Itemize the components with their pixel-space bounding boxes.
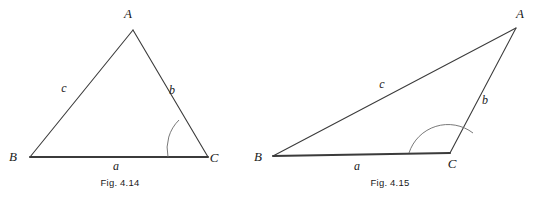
triangle-side-a [273,153,450,156]
figure-board: A B C a b c Fig. 4.14 A B C a b c Fig. 4… [0,0,540,199]
side-label-b: b [169,83,175,97]
triangle-side-b [450,28,516,153]
side-label-b: b [482,93,488,107]
vertex-label-c: C [448,156,457,171]
vertex-label-b: B [9,149,17,164]
vertex-label-a: A [123,6,132,21]
figures-canvas: A B C a b c Fig. 4.14 A B C a b c Fig. 4… [0,0,540,199]
figure-fig-4-15: A B C a b c Fig. 4.15 [254,6,524,188]
figure-caption: Fig. 4.14 [101,177,140,188]
figure-caption: Fig. 4.15 [371,177,410,188]
vertex-label-c: C [210,150,219,165]
side-label-c: c [61,81,67,95]
triangle-side-c [273,28,516,156]
triangle-side-c [30,30,133,157]
side-label-a: a [354,159,360,173]
figure-fig-4-14: A B C a b c Fig. 4.14 [9,6,219,188]
vertex-label-a: A [515,6,524,21]
side-label-a: a [113,159,119,173]
angle-arc-at-c [167,120,179,157]
side-label-c: c [379,77,385,91]
vertex-label-b: B [254,149,262,164]
